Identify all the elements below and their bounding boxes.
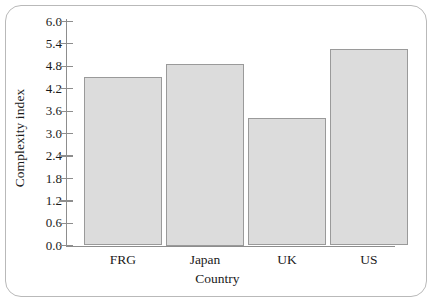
y-tick-label: 1.2	[22, 194, 62, 207]
x-tick-label-japan: Japan	[166, 252, 244, 268]
y-tick-mark	[59, 133, 73, 134]
bar-chart: Complexity index 6.0 5.4 4.8 4.2 3.6 3.0…	[0, 0, 435, 304]
y-tick-mark	[59, 200, 73, 201]
bar-uk[interactable]	[248, 118, 326, 245]
x-axis-title: Country	[0, 271, 435, 287]
y-tick-label: 2.4	[22, 149, 62, 162]
y-tick-mark	[59, 43, 73, 44]
y-tick-label: 3.0	[22, 127, 62, 140]
y-axis-tick-labels: 6.0 5.4 4.8 4.2 3.6 3.0 2.4 1.8 1.2 0.6 …	[22, 0, 62, 304]
y-tick-label: 1.8	[22, 172, 62, 185]
y-tick-label: 4.2	[22, 82, 62, 95]
x-tick-label-frg: FRG	[84, 252, 162, 268]
bar-japan[interactable]	[166, 64, 244, 246]
y-tick-mark	[59, 155, 73, 156]
y-tick-mark	[59, 21, 73, 22]
y-tick-mark	[59, 88, 73, 89]
x-tick-label-uk: UK	[248, 252, 326, 268]
bar-frg[interactable]	[84, 77, 162, 245]
y-tick-label: 0.0	[22, 239, 62, 252]
y-tick-mark	[59, 66, 73, 67]
bar-us[interactable]	[330, 49, 408, 245]
y-tick-mark	[59, 223, 73, 224]
y-tick-label: 3.6	[22, 104, 62, 117]
x-axis-line	[66, 246, 395, 247]
x-tick-label-us: US	[330, 252, 408, 268]
y-tick-label: 0.6	[22, 216, 62, 229]
y-tick-label: 6.0	[22, 15, 62, 28]
y-tick-label: 4.8	[22, 59, 62, 72]
y-tick-mark	[59, 178, 73, 179]
y-tick-label: 5.4	[22, 37, 62, 50]
y-tick-mark	[59, 111, 73, 112]
